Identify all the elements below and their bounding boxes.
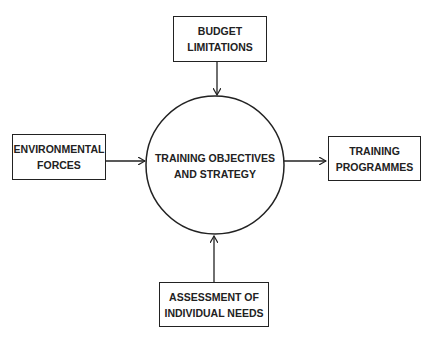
assessment-line-2: INDIVIDUAL NEEDS: [165, 305, 264, 321]
budget-line-1: BUDGET: [198, 23, 242, 39]
center-label-line-1: TRAINING OBJECTIVES: [150, 150, 280, 166]
environmental-line-1: ENVIRONMENTAL: [14, 141, 105, 157]
environmental-line-2: FORCES: [37, 157, 81, 173]
assessment-line-1: ASSESSMENT OF: [169, 289, 259, 305]
center-label-line-2: AND STRATEGY: [150, 166, 280, 182]
programmes-line-2: PROGRAMMES: [336, 159, 414, 175]
budget-limitations-box: BUDGET LIMITATIONS: [173, 16, 267, 62]
environmental-forces-box: ENVIRONMENTAL FORCES: [12, 134, 106, 180]
center-label: TRAINING OBJECTIVES AND STRATEGY: [150, 150, 280, 182]
budget-line-2: LIMITATIONS: [187, 39, 253, 55]
assessment-needs-box: ASSESSMENT OF INDIVIDUAL NEEDS: [159, 282, 269, 327]
programmes-line-1: TRAINING: [349, 143, 400, 159]
training-programmes-box: TRAINING PROGRAMMES: [328, 136, 421, 181]
